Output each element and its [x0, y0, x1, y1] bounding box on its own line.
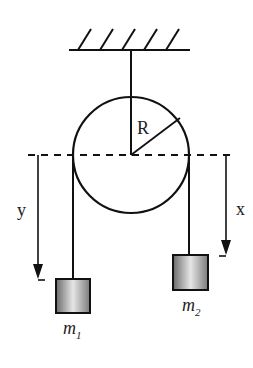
diagram-canvas: R y x m1 m2 — [0, 0, 253, 368]
displacement-arrow-x — [219, 155, 231, 256]
mass-label-m1: m1 — [63, 318, 82, 341]
mass-block-m2 — [173, 255, 208, 290]
ceiling-support — [69, 29, 190, 50]
radius-label: R — [137, 118, 149, 138]
pulley-diagram: R y x m1 m2 — [0, 0, 253, 368]
displacement-arrow-y — [33, 155, 45, 280]
mass-block-m1 — [56, 279, 90, 313]
x-label: x — [236, 199, 245, 219]
mass-label-m2: m2 — [182, 295, 201, 318]
y-label: y — [17, 200, 26, 220]
